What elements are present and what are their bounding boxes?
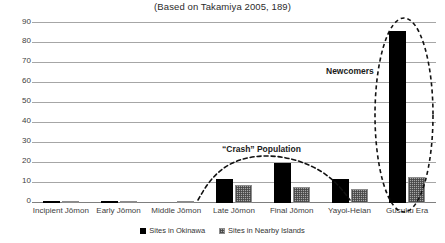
bar-group-early-jomon bbox=[90, 22, 148, 203]
bar-okinawa-incipient-jomon bbox=[43, 201, 60, 203]
bar-nearby-final-jomon bbox=[293, 187, 310, 203]
x-axis-tick-late-jomon: Late Jōmon bbox=[205, 206, 263, 215]
plot-area bbox=[32, 22, 436, 203]
x-axis-tick-gusuku-era: Gusuku Era bbox=[378, 206, 436, 215]
bar-nearby-early-jomon bbox=[120, 201, 137, 203]
bar-group-gusuku-era bbox=[378, 22, 436, 203]
bar-nearby-gusuku-era bbox=[408, 177, 425, 203]
chart-legend: Sites in Okinawa Sites in Nearby Islands bbox=[0, 226, 445, 235]
bar-nearby-late-jomon bbox=[235, 185, 252, 203]
y-axis-tick-80: 80 bbox=[7, 37, 31, 45]
x-axis-tick-final-jomon: Final Jōmon bbox=[263, 206, 321, 215]
bar-nearby-middle-jomon bbox=[177, 201, 194, 203]
chart-container: (Based on Takamiya 2005, 189) 0 10 20 30… bbox=[0, 0, 445, 243]
bar-okinawa-yayoi-heian bbox=[332, 179, 349, 203]
y-axis-tick-70: 70 bbox=[7, 57, 31, 65]
bar-group-yayoi-heian bbox=[321, 22, 379, 203]
bar-group-late-jomon bbox=[205, 22, 263, 203]
y-axis-tick-30: 30 bbox=[7, 137, 31, 145]
annotation-crash-population: “Crash” Population bbox=[222, 144, 301, 154]
annotation-newcomers: Newcomers bbox=[326, 66, 374, 76]
legend-item-nearby-islands[interactable]: Sites in Nearby Islands bbox=[219, 226, 305, 235]
bar-okinawa-late-jomon bbox=[216, 179, 233, 203]
chart-title: (Based on Takamiya 2005, 189) bbox=[0, 1, 445, 12]
legend-swatch-okinawa-icon bbox=[140, 228, 146, 234]
bar-group-final-jomon bbox=[263, 22, 321, 203]
legend-label-nearby-islands: Sites in Nearby Islands bbox=[228, 226, 305, 235]
bar-okinawa-gusuku-era bbox=[389, 31, 406, 203]
legend-swatch-nearby-islands-icon bbox=[219, 228, 225, 234]
legend-item-okinawa[interactable]: Sites in Okinawa bbox=[140, 226, 205, 235]
bar-nearby-incipient-jomon bbox=[62, 201, 79, 203]
legend-label-okinawa: Sites in Okinawa bbox=[149, 226, 205, 235]
bar-group-middle-jomon bbox=[147, 22, 205, 203]
bar-okinawa-early-jomon bbox=[101, 201, 118, 203]
y-axis-tick-50: 50 bbox=[7, 97, 31, 105]
x-axis-tick-middle-jomon: Middle Jōmon bbox=[147, 206, 205, 215]
y-axis-tick-10: 10 bbox=[7, 177, 31, 185]
y-axis-tick-60: 60 bbox=[7, 77, 31, 85]
bar-group-incipient-jomon bbox=[32, 22, 90, 203]
y-axis-tick-0: 0 bbox=[7, 197, 31, 205]
bar-nearby-yayoi-heian bbox=[351, 189, 368, 203]
y-axis-tick-40: 40 bbox=[7, 117, 31, 125]
bar-okinawa-final-jomon bbox=[274, 163, 291, 203]
y-axis-tick-90: 90 bbox=[7, 18, 31, 26]
x-axis-tick-yayoi-heian: Yayoi-Heian bbox=[321, 206, 379, 215]
x-axis-tick-early-jomon: Early Jōmon bbox=[90, 206, 148, 215]
x-axis-tick-incipient-jomon: Incipient Jōmon bbox=[32, 206, 90, 215]
y-axis-tick-20: 20 bbox=[7, 157, 31, 165]
